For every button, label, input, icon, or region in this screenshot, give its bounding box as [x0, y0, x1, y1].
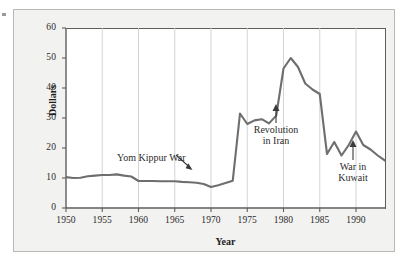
annotation-revolution-in-iran: Revolutionin Iran — [245, 124, 307, 146]
annotation-arrows — [0, 0, 408, 271]
annotation-revolution-in-iran-line1: Revolution — [254, 124, 298, 135]
annotation-revolution-in-iran-line2: in Iran — [263, 135, 289, 146]
revolution-in-iran-arrow — [273, 104, 280, 123]
annotation-war-in-kuwait: War inKuwait — [330, 161, 376, 183]
annotation-war-in-kuwait-line1: War in — [340, 161, 367, 172]
annotation-war-in-kuwait-line2: Kuwait — [338, 172, 367, 183]
x-axis-label: Year — [66, 236, 385, 247]
war-in-kuwait-arrow — [350, 140, 357, 160]
y-axis-label: Dollars — [47, 71, 58, 131]
figure-root: 0102030405060 19501955196019651970197519… — [0, 0, 408, 271]
annotation-yom-kippur-war: Yom Kippur War — [117, 152, 186, 163]
